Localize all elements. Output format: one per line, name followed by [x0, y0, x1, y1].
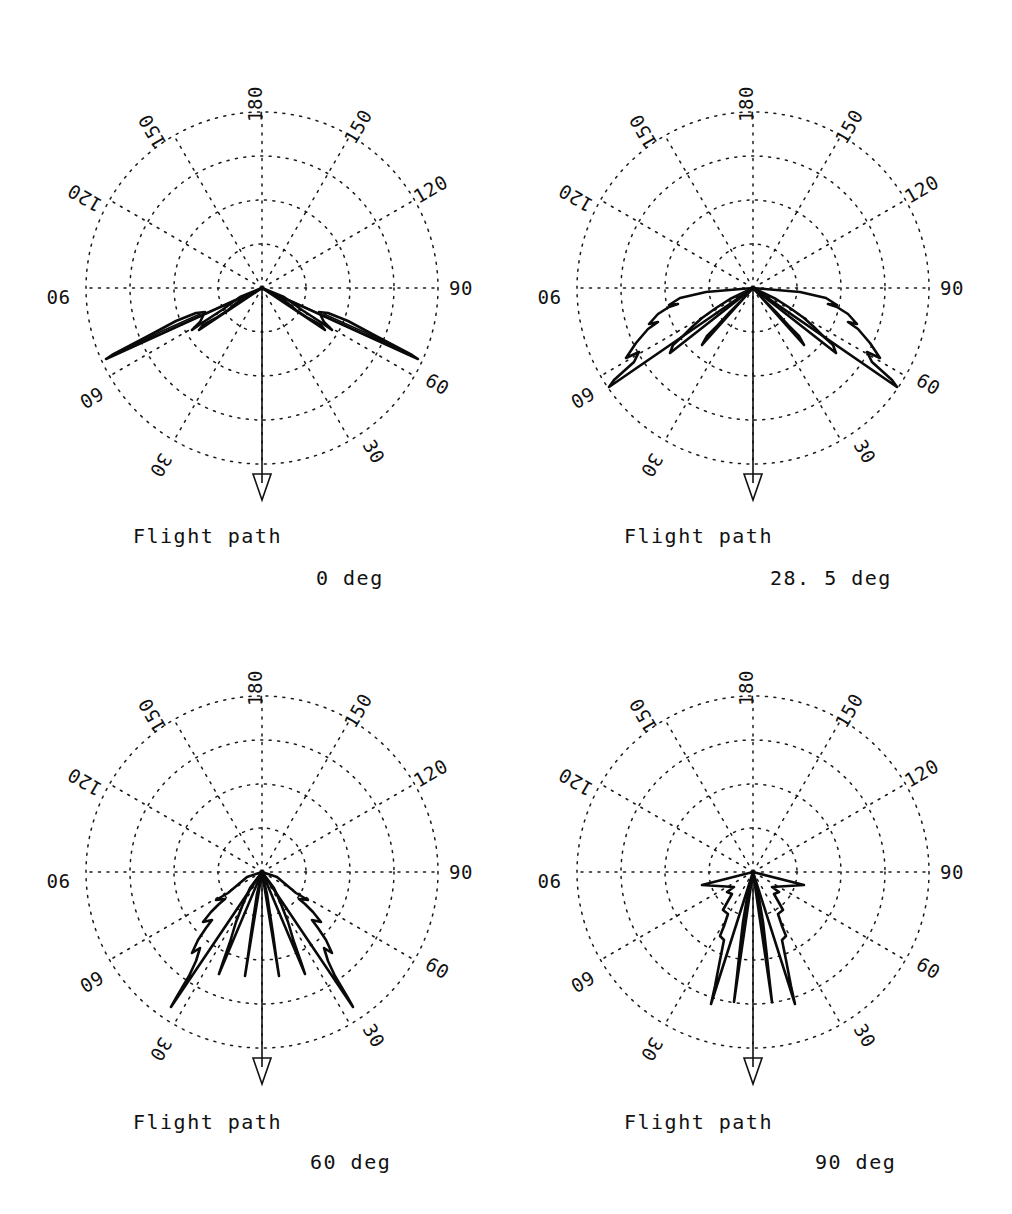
axis-tick-labels-60deg: 180 150 120 90 60 30 150 120 90 60 30 [46, 670, 473, 1065]
axis-label-left-150: 150 [624, 694, 661, 736]
axis-label-left-30: 30 [146, 450, 177, 482]
axis-label-left-60: 60 [567, 383, 599, 414]
axis-label-left-30: 30 [146, 1034, 177, 1066]
axis-label-left-120: 120 [63, 764, 105, 801]
axis-label-right-60: 60 [913, 952, 945, 983]
axis-label-left-60: 60 [567, 967, 599, 998]
angle-caption-28p5deg: 28. 5 deg [770, 566, 892, 590]
polar-panel-90deg: 180 150 120 90 60 30 150 120 90 60 30 [506, 604, 1012, 1204]
polar-plot-28p5deg-svg: 180 150 120 90 60 30 150 120 90 60 30 [506, 0, 1012, 600]
polar-panel-60deg: 180 150 120 90 60 30 150 120 90 60 30 [0, 604, 506, 1204]
axis-label-left-120: 120 [554, 764, 596, 801]
axis-label-left-90: 90 [46, 286, 70, 308]
axis-label-left-60: 60 [76, 383, 108, 414]
flight-path-caption-0deg: Flight path [133, 524, 282, 548]
axis-label-left-90: 90 [537, 870, 561, 892]
flight-path-caption-60deg: Flight path [133, 1110, 282, 1134]
axis-label-right-150: 150 [830, 689, 867, 731]
figure-bottom-note [0, 1196, 1012, 1214]
axis-label-left-120: 120 [63, 180, 105, 217]
axis-label-180: 180 [735, 86, 757, 122]
axis-label-right-90: 90 [940, 861, 964, 883]
axis-label-right-30: 30 [850, 1020, 881, 1052]
axis-label-right-150: 150 [339, 689, 376, 731]
figure-canvas: 180 150 120 90 60 30 150 120 90 60 30 [0, 0, 1012, 1214]
axis-label-right-30: 30 [850, 436, 881, 468]
axis-label-left-120: 120 [554, 180, 596, 217]
axis-label-left-150: 150 [133, 694, 170, 736]
polar-panel-0deg: 180 150 120 90 60 30 150 120 90 60 30 [0, 0, 506, 600]
axis-tick-labels-90deg: 180 150 120 90 60 30 150 120 90 60 30 [537, 670, 964, 1065]
axis-label-left-30: 30 [637, 450, 668, 482]
axis-label-right-120: 120 [409, 754, 451, 791]
axis-label-right-90: 90 [449, 861, 473, 883]
axis-label-left-150: 150 [624, 110, 661, 152]
axis-tick-labels-28p5deg: 180 150 120 90 60 30 150 120 90 60 30 [537, 86, 964, 481]
axis-label-right-150: 150 [830, 105, 867, 147]
axis-label-180: 180 [244, 670, 266, 706]
axis-label-left-60: 60 [76, 967, 108, 998]
axis-label-left-30: 30 [637, 1034, 668, 1066]
axis-tick-labels-0deg: 180 150 120 90 60 30 150 120 90 60 30 [46, 86, 473, 481]
axis-label-right-120: 120 [900, 170, 942, 207]
flight-path-arrow-0deg [253, 288, 271, 500]
angle-caption-60deg: 60 deg [310, 1150, 391, 1174]
axis-label-right-120: 120 [409, 170, 451, 207]
angle-caption-90deg: 90 deg [815, 1150, 896, 1174]
flight-path-caption-28p5deg: Flight path [624, 524, 773, 548]
flight-path-arrow-28p5deg [744, 288, 762, 500]
axis-label-right-60: 60 [422, 952, 454, 983]
angle-caption-0deg: 0 deg [316, 566, 384, 590]
axis-label-right-90: 90 [940, 277, 964, 299]
axis-label-right-60: 60 [913, 368, 945, 399]
polar-plot-0deg-svg: 180 150 120 90 60 30 150 120 90 60 30 [0, 0, 506, 600]
axis-label-180: 180 [735, 670, 757, 706]
axis-label-left-90: 90 [46, 870, 70, 892]
axis-label-right-120: 120 [900, 754, 942, 791]
axis-label-left-90: 90 [537, 286, 561, 308]
axis-label-left-150: 150 [133, 110, 170, 152]
axis-label-right-30: 30 [359, 436, 390, 468]
axis-label-right-30: 30 [359, 1020, 390, 1052]
axis-label-right-60: 60 [422, 368, 454, 399]
polar-panel-28p5deg: 180 150 120 90 60 30 150 120 90 60 30 [506, 0, 1012, 600]
axis-label-right-90: 90 [449, 277, 473, 299]
flight-path-caption-90deg: Flight path [624, 1110, 773, 1134]
axis-label-right-150: 150 [339, 105, 376, 147]
axis-label-180: 180 [244, 86, 266, 122]
